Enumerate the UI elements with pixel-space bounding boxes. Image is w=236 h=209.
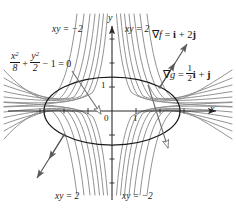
y-tick-label-1: 1: [101, 81, 106, 90]
grad-g-opposite-arrow: [49, 135, 64, 159]
figure-canvas: [0, 0, 236, 209]
grad-g-equals: =: [175, 69, 186, 80]
y-squared-numerator: y2: [30, 50, 40, 63]
tangency-point-1: [158, 85, 161, 88]
grad-f-label: ∇f = i + 2j: [152, 30, 196, 41]
grad-f-j-hat: j: [192, 29, 196, 40]
x-squared-numerator: x2: [10, 50, 20, 63]
grad-g-label: ∇g = 12i + j: [163, 64, 210, 84]
grad-f-equals: =: [162, 29, 173, 40]
grad-g-plus: +: [196, 69, 207, 80]
y-denominator: 2: [30, 63, 40, 74]
y-squared-over-2: y22: [30, 50, 40, 73]
x-axis-label: x: [210, 104, 214, 114]
x-denominator: 8: [10, 63, 20, 74]
curve-label-top-left: xy = −2: [52, 25, 83, 35]
grad-g-j-hat: j: [207, 69, 211, 80]
x-exponent: 2: [15, 50, 18, 57]
origin-label: 0: [104, 114, 109, 123]
grad-g-nabla: ∇: [163, 69, 170, 80]
curve-label-top-right: xy = 2: [125, 25, 149, 35]
ellipse-equation-label: x28 + y22 − 1 = 0: [10, 50, 71, 73]
y-exponent: 2: [36, 50, 39, 57]
tangency-point-3: [62, 133, 65, 136]
x-tick-label-1: 1: [133, 114, 138, 123]
curve-label-bottom-left: xy = 2: [55, 192, 79, 202]
y-axis-label: y: [108, 13, 112, 23]
x-squared-over-8: x28: [10, 50, 20, 73]
lagrange-multiplier-figure: x y 0 1 1 xy = −2 xy = 2 xy = 2 xy = −2 …: [0, 0, 236, 209]
equation-plus: +: [20, 58, 31, 69]
curve-label-bottom-right: xy = −2: [122, 192, 153, 202]
grad-f-nabla: ∇: [152, 29, 159, 40]
level-curve-family: [4, 14, 232, 195]
grad-f-plus: + 2: [176, 29, 192, 40]
equation-tail: − 1 = 0: [40, 58, 71, 69]
